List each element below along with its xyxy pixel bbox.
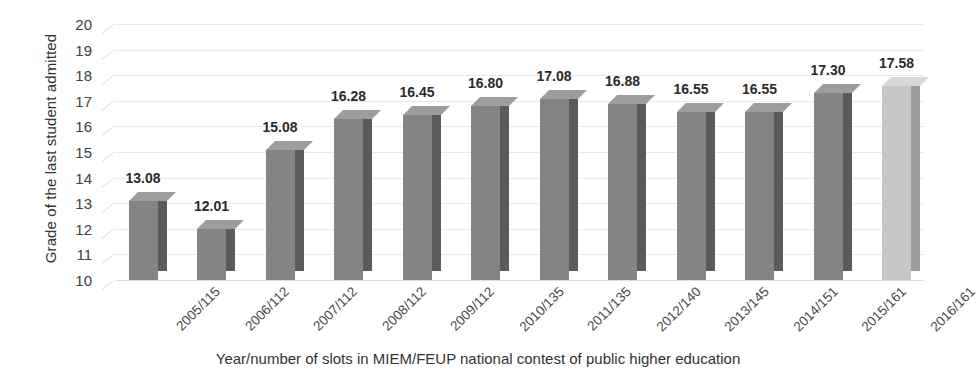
bar-side-face — [363, 110, 372, 271]
bar-value-label: 13.08 — [125, 170, 160, 186]
bar-value-label: 16.55 — [673, 81, 708, 97]
bar-front-face — [471, 106, 500, 280]
y-axis-tick-label: 19 — [58, 42, 92, 57]
bar-front-face — [334, 119, 363, 280]
bar-front-face — [266, 150, 295, 280]
bar-value-label: 15.08 — [262, 119, 297, 135]
y-axis-tick-label: 13 — [58, 196, 92, 211]
bar[interactable]: 16.28 — [334, 110, 363, 280]
y-axis-title: Grade of the last student admitted — [42, 14, 59, 284]
x-axis-tick-label: 2016/161 — [927, 284, 977, 334]
bar[interactable]: 13.08 — [129, 192, 158, 280]
bar-front-face — [814, 93, 843, 280]
bar-top-face — [403, 106, 450, 115]
x-axis-tick-label: 2006/112 — [242, 284, 292, 334]
bar[interactable]: 16.55 — [677, 103, 706, 280]
y-axis-tick-label: 11 — [58, 247, 92, 262]
x-axis-tick-label: 2013/145 — [721, 284, 771, 334]
bar-front-face — [882, 86, 911, 280]
bar-front-face — [677, 112, 706, 280]
bar-value-label: 17.08 — [536, 68, 571, 84]
bar-front-face — [129, 201, 158, 280]
bar-top-face — [540, 90, 587, 99]
bar-value-label: 12.01 — [194, 198, 229, 214]
bar-top-face — [814, 84, 861, 93]
x-axis-tick-label: 2009/112 — [447, 284, 497, 334]
bar[interactable]: 16.80 — [471, 97, 500, 280]
y-axis-tick-label: 14 — [58, 170, 92, 185]
bar-value-label: 16.55 — [742, 81, 777, 97]
bar-front-face — [540, 99, 569, 280]
bar-side-face — [432, 106, 441, 271]
x-axis-tick-label: 2011/135 — [584, 284, 634, 334]
bar-side-face — [158, 192, 167, 271]
bar-top-face — [882, 77, 929, 86]
x-axis-tick-label: 2014/151 — [790, 284, 840, 334]
bar-value-label: 16.88 — [605, 73, 640, 89]
bar-side-face — [843, 84, 852, 271]
bar-value-label: 16.45 — [399, 84, 434, 100]
bar[interactable]: 12.01 — [197, 220, 226, 280]
bar[interactable]: 17.30 — [814, 84, 843, 280]
y-axis-tick-label: 15 — [58, 145, 92, 160]
bar[interactable]: 17.58 — [882, 77, 911, 280]
bar-top-face — [677, 103, 724, 112]
bar-side-face — [637, 95, 646, 271]
bar[interactable]: 16.45 — [403, 106, 432, 280]
x-axis-tick-label: 2008/112 — [379, 284, 429, 334]
bar-side-face — [500, 97, 509, 271]
bar-top-face — [471, 97, 518, 106]
bar-front-face — [403, 115, 432, 280]
bar-front-face — [608, 104, 637, 280]
plot-area: 13.0812.0115.0816.2816.4516.8017.0816.88… — [102, 24, 924, 280]
bar-value-label: 16.80 — [468, 75, 503, 91]
x-axis-tick-label: 2005/115 — [173, 284, 223, 334]
x-axis-tick-label: 2015/161 — [858, 284, 908, 334]
bar-top-face — [197, 220, 244, 229]
gridline — [116, 280, 924, 281]
x-axis-tick-labels: 2005/1152006/1122007/1122008/1122009/112… — [102, 284, 924, 346]
bar-value-label: 17.58 — [879, 55, 914, 71]
y-axis-tick-label: 20 — [58, 17, 92, 32]
bar-value-label: 16.28 — [331, 88, 366, 104]
y-axis-tick-label: 10 — [58, 273, 92, 288]
bars-layer: 13.0812.0115.0816.2816.4516.8017.0816.88… — [102, 24, 924, 280]
bar-side-face — [295, 141, 304, 271]
bar[interactable]: 15.08 — [266, 141, 295, 280]
bar-top-face — [266, 141, 313, 150]
x-axis-tick-label: 2010/135 — [516, 284, 566, 334]
x-axis-tick-label: 2007/112 — [310, 284, 360, 334]
y-axis-tick-label: 16 — [58, 119, 92, 134]
bar[interactable]: 16.55 — [745, 103, 774, 280]
bar-side-face — [774, 103, 783, 271]
bar-value-label: 17.30 — [810, 62, 845, 78]
bar-front-face — [745, 112, 774, 280]
bar-top-face — [608, 95, 655, 104]
y-axis-tick-label: 18 — [58, 68, 92, 83]
bar[interactable]: 17.08 — [540, 90, 569, 280]
bar-front-face — [197, 229, 226, 280]
bar[interactable]: 16.88 — [608, 95, 637, 280]
y-axis-tick-label: 12 — [58, 221, 92, 236]
bar-top-face — [129, 192, 176, 201]
x-axis-tick-label: 2012/140 — [653, 284, 703, 334]
bar-top-face — [745, 103, 792, 112]
y-axis-tick-labels: 2019181716151413121110 — [58, 0, 92, 374]
bar-top-face — [334, 110, 381, 119]
bar-side-face — [706, 103, 715, 271]
bar-side-face — [911, 77, 920, 271]
bar-side-face — [569, 90, 578, 271]
y-axis-tick-label: 17 — [58, 93, 92, 108]
x-axis-title: Year/number of slots in MIEM/FEUP nation… — [0, 350, 956, 367]
